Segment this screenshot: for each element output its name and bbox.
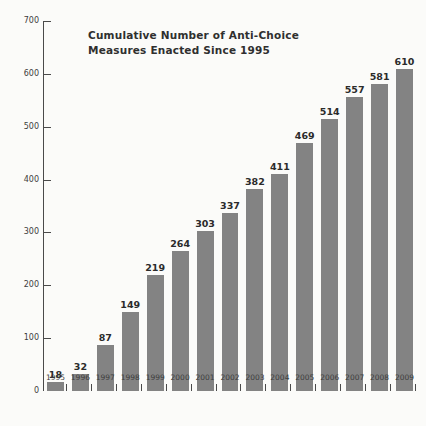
bar-slot[interactable]: 337 (219, 21, 244, 391)
bar-slot[interactable]: 149 (119, 21, 144, 391)
bar-value-label: 32 (63, 362, 98, 372)
x-axis-tick-label-2009: 2009 (390, 374, 420, 382)
y-axis-tick-label: 300 (6, 228, 39, 236)
x-axis-tick (340, 384, 341, 391)
x-axis-tick (315, 384, 316, 391)
bar-slot[interactable]: 18 (44, 21, 69, 391)
bar-2001[interactable] (197, 231, 214, 391)
bar-1997[interactable] (97, 345, 114, 391)
bar-value-label: 87 (88, 333, 123, 343)
bar-slot[interactable]: 264 (169, 21, 194, 391)
y-axis-tick-label: 700 (6, 17, 39, 25)
y-axis-tick-label-text: 600 (9, 70, 39, 78)
bars-area: 1832871492192643033373824114695145575816… (44, 21, 418, 391)
x-axis-tick (390, 384, 391, 391)
bar-slot[interactable]: 610 (393, 21, 418, 391)
bar-2000[interactable] (172, 251, 189, 391)
y-axis-tick-label: 600 (6, 70, 39, 78)
bar-value-label: 411 (262, 162, 297, 172)
x-axis-tick (191, 384, 192, 391)
bar-slot[interactable]: 219 (144, 21, 169, 391)
y-axis-tick-label-text: 700 (9, 17, 39, 25)
bar-value-label: 303 (188, 219, 223, 229)
y-axis-tick-label: 200 (6, 281, 39, 289)
bar-value-label: 264 (163, 239, 198, 249)
x-axis-tick (290, 384, 291, 391)
bar-value-label: 382 (237, 177, 272, 187)
bar-2007[interactable] (346, 97, 363, 391)
x-axis-tick (240, 384, 241, 391)
bar-2009[interactable] (396, 69, 413, 391)
x-axis-tick (216, 384, 217, 391)
bar-slot[interactable]: 514 (318, 21, 343, 391)
bar-2004[interactable] (271, 174, 288, 391)
x-axis-tick (66, 384, 67, 391)
y-axis-tick-label: 100 (6, 334, 39, 342)
x-axis-tick (265, 384, 266, 391)
y-axis-tick-label-text: 300 (9, 228, 39, 236)
bar-1995[interactable] (47, 382, 64, 392)
bar-2006[interactable] (321, 119, 338, 391)
bar-2002[interactable] (222, 213, 239, 391)
bar-slot[interactable]: 87 (94, 21, 119, 391)
bar-value-label: 514 (312, 107, 347, 117)
y-axis-tick-label: 400 (6, 176, 39, 184)
bar-value-label: 581 (362, 72, 397, 82)
x-axis-tick (365, 384, 366, 391)
y-axis-tick-label-text: 400 (9, 176, 39, 184)
bar-value-label: 610 (387, 57, 422, 67)
bar-2008[interactable] (371, 84, 388, 391)
y-axis-tick-label-text: 0 (9, 387, 39, 395)
bar-slot[interactable]: 581 (368, 21, 393, 391)
y-axis-tick-label: 0 (6, 387, 39, 395)
bar-value-label: 219 (138, 263, 173, 273)
bar-value-label: 149 (113, 300, 148, 310)
bar-slot[interactable]: 469 (293, 21, 318, 391)
y-axis-tick-label-text: 100 (9, 334, 39, 342)
y-axis-tick-label: 500 (6, 123, 39, 131)
bar-chart-figure: Cumulative Number of Anti-Choice Measure… (0, 0, 426, 426)
bar-slot[interactable]: 382 (243, 21, 268, 391)
x-axis-tick (415, 384, 416, 391)
x-axis-tick (116, 384, 117, 391)
x-axis-tick (91, 384, 92, 391)
y-axis-tick-label-text: 200 (9, 281, 39, 289)
x-axis-tick (166, 384, 167, 391)
bar-value-label: 469 (287, 131, 322, 141)
bar-2003[interactable] (246, 189, 263, 391)
bar-value-label: 557 (337, 85, 372, 95)
bar-2005[interactable] (296, 143, 313, 391)
x-axis-tick (141, 384, 142, 391)
bar-value-label: 337 (213, 201, 248, 211)
y-axis-tick-label-text: 500 (9, 123, 39, 131)
bar-slot[interactable]: 411 (268, 21, 293, 391)
